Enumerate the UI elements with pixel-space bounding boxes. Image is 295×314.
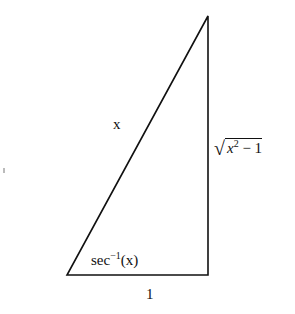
radicand-var: x <box>227 140 234 156</box>
angle-exponent: −1 <box>110 250 121 261</box>
radicand: x2 − 1 <box>225 138 262 156</box>
hypotenuse-text: x <box>113 116 121 132</box>
opposite-side-label: √x2 − 1 <box>214 136 262 156</box>
angle-func: sec <box>91 252 110 268</box>
right-triangle <box>67 16 208 275</box>
adjacent-side-text: 1 <box>146 286 154 302</box>
sqrt-icon: √ <box>214 137 225 159</box>
triangle-diagram <box>0 0 295 314</box>
adjacent-side-label: 1 <box>146 287 154 302</box>
angle-label: sec−1(x) <box>91 253 138 268</box>
hypotenuse-label: x <box>113 117 121 132</box>
radicand-rest: − 1 <box>239 140 262 156</box>
angle-arg: (x) <box>121 252 139 268</box>
scan-artifact <box>3 168 5 173</box>
